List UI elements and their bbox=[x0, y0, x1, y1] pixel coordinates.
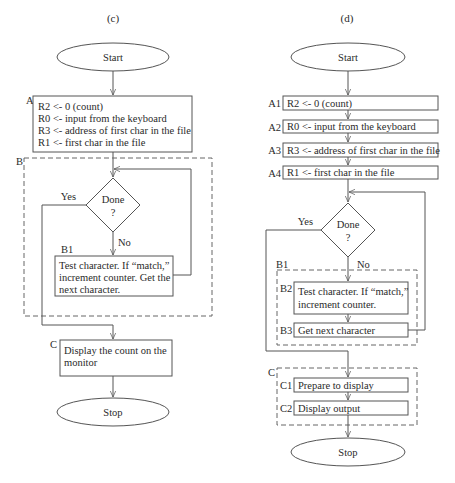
decision-question: ? bbox=[346, 232, 351, 243]
step-a2: A2 R0 <- input from the keyboard bbox=[268, 120, 438, 133]
start-terminal: Start bbox=[57, 43, 169, 71]
stop-terminal: Stop bbox=[291, 438, 405, 466]
decision-question: ? bbox=[111, 207, 116, 218]
step-b2-line-2: increment counter. bbox=[298, 299, 376, 310]
stop-terminal: Stop bbox=[57, 398, 169, 426]
start-label: Start bbox=[338, 52, 358, 63]
step-b2-line-1: Test character. If “match,” bbox=[298, 286, 409, 297]
group-c: C C1 Prepare to display C2 Display outpu… bbox=[268, 367, 417, 425]
block-a: A R2 <- 0 (count) R0 <- input from the k… bbox=[26, 95, 192, 152]
step-a1: A1 R2 <- 0 (count) bbox=[268, 96, 438, 110]
decision-text: Done bbox=[337, 219, 360, 230]
block-c-line-1: Display the count on the bbox=[64, 345, 167, 356]
step-a3-label: A3 bbox=[268, 145, 281, 156]
step-a3: A3 R3 <- address of first char in the fi… bbox=[268, 143, 440, 157]
group-b-label: B bbox=[16, 156, 23, 167]
decision-done: Done ? Yes No bbox=[298, 203, 375, 270]
step-a2-label: A2 bbox=[268, 122, 281, 133]
flowchart-c: (c) Start A R2 <- 0 (count) R0 <- input … bbox=[16, 12, 212, 426]
block-a-line-3: R3 <- address of first char in the file bbox=[38, 125, 191, 136]
decision-no-label: No bbox=[357, 259, 370, 270]
block-b1-line-3: next character. bbox=[59, 284, 120, 295]
group-b1-label: B1 bbox=[276, 259, 288, 270]
block-a-line-1: R2 <- 0 (count) bbox=[38, 101, 104, 113]
stop-label: Stop bbox=[338, 447, 357, 458]
step-a1-text: R2 <- 0 (count) bbox=[287, 98, 353, 110]
flowchart-d: (d) Start A1 R2 <- 0 (count) A2 R0 <- in… bbox=[266, 12, 440, 466]
block-b1: B1 Test character. If “match,” increment… bbox=[55, 244, 173, 296]
decision-done: Done ? Yes No bbox=[61, 178, 140, 248]
start-terminal: Start bbox=[291, 43, 405, 71]
stop-label: Stop bbox=[103, 407, 122, 418]
block-b1-label: B1 bbox=[61, 244, 73, 255]
step-a1-label: A1 bbox=[268, 98, 281, 109]
decision-text: Done bbox=[102, 194, 125, 205]
step-c2-text: Display output bbox=[298, 403, 360, 414]
step-a3-text: R3 <- address of first char in the file bbox=[287, 145, 440, 156]
block-a-line-4: R1 <- first char in the file bbox=[38, 137, 146, 148]
block-a-line-2: R0 <- input from the keyboard bbox=[38, 113, 167, 124]
start-label: Start bbox=[103, 52, 123, 63]
decision-yes-label: Yes bbox=[298, 216, 313, 227]
step-b2-label: B2 bbox=[280, 283, 292, 294]
block-c: C Display the count on the monitor bbox=[50, 339, 172, 376]
step-b3-text: Get next character bbox=[298, 325, 375, 336]
step-c2-label: C2 bbox=[280, 403, 292, 414]
flowchart-d-title: (d) bbox=[341, 12, 354, 25]
step-c1-text: Prepare to display bbox=[298, 380, 375, 391]
flowchart-canvas: (c) Start A R2 <- 0 (count) R0 <- input … bbox=[0, 0, 455, 483]
step-b3-label: B3 bbox=[280, 325, 292, 336]
step-a2-text: R0 <- input from the keyboard bbox=[287, 121, 416, 132]
step-a4: A4 R1 <- first char in the file bbox=[268, 166, 438, 179]
step-a4-label: A4 bbox=[268, 168, 282, 179]
block-b1-line-2: increment counter. Get the bbox=[59, 272, 171, 283]
group-c-label: C bbox=[268, 367, 275, 378]
step-c1-label: C1 bbox=[280, 380, 292, 391]
step-a4-text: R1 <- first char in the file bbox=[287, 167, 395, 178]
decision-no-label: No bbox=[118, 237, 131, 248]
group-b1: B1 B2 Test character. If “match,” increm… bbox=[276, 259, 417, 345]
block-c-label: C bbox=[50, 339, 57, 350]
block-b1-line-1: Test character. If “match,” bbox=[59, 260, 170, 271]
decision-yes-label: Yes bbox=[61, 191, 76, 202]
block-c-line-2: monitor bbox=[64, 357, 98, 368]
flowchart-c-title: (c) bbox=[107, 12, 120, 25]
